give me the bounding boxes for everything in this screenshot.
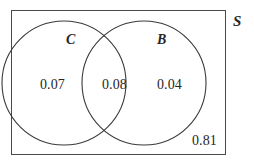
region-value-intersection: 0.08 — [102, 78, 127, 92]
set-label-b: B — [157, 33, 166, 47]
universe-label-s: S — [233, 14, 241, 29]
venn-diagram-figure: C B S 0.07 0.08 0.04 0.81 — [0, 0, 254, 166]
set-label-c: C — [66, 33, 75, 47]
region-value-outside: 0.81 — [192, 134, 217, 148]
region-value-left-only: 0.07 — [40, 78, 65, 92]
region-value-right-only: 0.04 — [157, 78, 182, 92]
